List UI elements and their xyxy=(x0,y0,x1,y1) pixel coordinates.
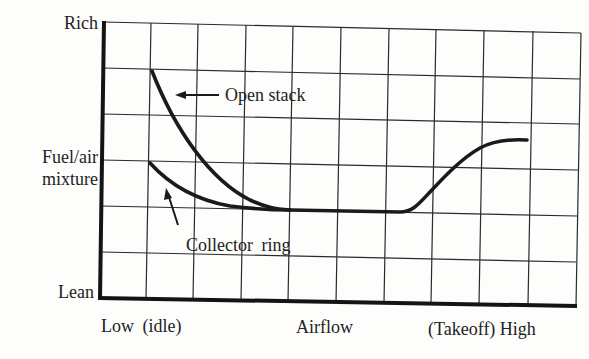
gridline-v xyxy=(528,31,533,305)
y-label-mixture: mixture xyxy=(10,170,98,188)
y-axis xyxy=(100,21,104,299)
y-label-fuel-air: Fuel/air xyxy=(10,148,98,166)
annotation-open-stack: Open stack xyxy=(225,86,305,104)
curve-common-takeoff xyxy=(290,140,527,212)
x-label-airflow: Airflow xyxy=(296,318,353,336)
annotation-collector-ring: Collector ring xyxy=(186,236,290,254)
y-label-lean: Lean xyxy=(30,283,94,301)
grid xyxy=(101,22,581,306)
chart-canvas: Rich Fuel/air mixture Lean Low (idle) Ai… xyxy=(0,0,589,359)
arrow-collector-ring xyxy=(164,188,178,225)
x-label-low-idle: Low (idle) xyxy=(101,317,181,335)
gridline-h xyxy=(103,22,581,33)
x-label-takeoff-high: (Takeoff) High xyxy=(428,320,536,338)
gridline-h xyxy=(103,68,580,79)
gridline-h xyxy=(101,252,576,262)
x-axis xyxy=(98,298,577,306)
y-label-rich: Rich xyxy=(36,14,98,32)
gridline-h xyxy=(102,160,578,170)
